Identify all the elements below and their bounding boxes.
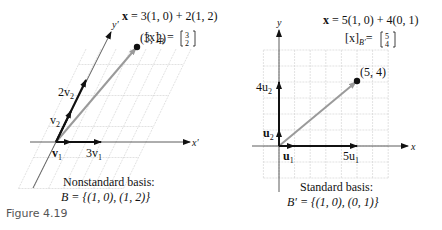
left-coord-matrix: 3 2: [181, 31, 195, 48]
left-grid-line: [64, 49, 132, 189]
left-grid-line: [49, 49, 117, 189]
right-coord-matrix: 5 4: [381, 32, 395, 49]
right-point-label: (5, 4): [360, 65, 386, 79]
left-skewed-grid: [19, 49, 192, 189]
right-4u2-label: 4u2: [256, 80, 272, 96]
right-basis-title: Standard basis:: [300, 180, 373, 194]
right-x-axis-label: x: [410, 141, 416, 152]
left-coord-2: 2: [185, 39, 189, 48]
left-grid-line: [94, 49, 162, 189]
right-y-axis-label: y: [276, 17, 282, 28]
right-axes: [252, 30, 408, 192]
right-u2-label: u2: [263, 126, 274, 142]
left-axes: [30, 32, 190, 188]
left-basis-set: B = {(1, 0), (1, 2)}: [61, 190, 150, 204]
left-v1-label: v1: [52, 146, 62, 162]
left-equation: x = 3(1, 0) + 2(1, 2): [122, 9, 218, 23]
left-basis-title: Nonstandard basis:: [63, 175, 155, 189]
left-y-axis-label: y′: [111, 19, 119, 30]
left-3v1-label: 3v1: [86, 146, 102, 162]
right-coord-2: 4: [385, 40, 389, 49]
left-grid-line: [79, 49, 147, 189]
figure-caption: Figure 4.19: [6, 207, 68, 220]
right-equation: x = 5(1, 0) + 4(0, 1): [323, 13, 419, 27]
right-basis-set: B′ = {(1, 0), (0, 1)}: [287, 195, 379, 209]
right-coord-vector: [x]B′=: [345, 31, 373, 47]
left-v2-label: v2: [50, 113, 60, 129]
figure: (3, 2) x′ y′ v1 3v1 v2 2v2 x = 3(1, 0) +…: [0, 0, 442, 230]
left-2v2-label: 2v2: [58, 85, 74, 101]
left-grid-line: [124, 49, 192, 189]
right-5u1-label: 5u1: [343, 149, 359, 165]
right-u1-label: u1: [283, 149, 294, 165]
left-x-axis-label: x′: [191, 137, 199, 148]
